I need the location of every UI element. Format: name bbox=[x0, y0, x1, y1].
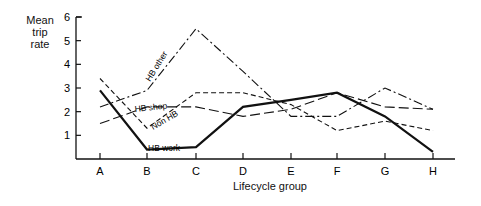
x-tick-label: D bbox=[239, 165, 247, 177]
x-tick-label: G bbox=[381, 165, 390, 177]
x-tick-label: A bbox=[96, 165, 104, 177]
x-tick-label: C bbox=[192, 165, 200, 177]
x-tick-label: H bbox=[429, 165, 437, 177]
x-tick-label: E bbox=[287, 165, 294, 177]
y-tick-label: 1 bbox=[64, 129, 70, 141]
y-tick-label: 4 bbox=[64, 58, 70, 70]
series-label: HB work bbox=[148, 143, 181, 153]
y-tick-label: 2 bbox=[64, 106, 70, 118]
x-tick-label: B bbox=[143, 165, 150, 177]
line-chart: 123456ABCDEFGHHB otherHB shopNon HBHB wo… bbox=[0, 0, 481, 206]
y-tick-label: 6 bbox=[64, 11, 70, 23]
series-label: HB shop bbox=[134, 101, 168, 114]
x-tick-label: F bbox=[334, 165, 341, 177]
y-tick-label: 5 bbox=[64, 35, 70, 47]
series-label: HB other bbox=[143, 49, 169, 83]
y-tick-label: 3 bbox=[64, 82, 70, 94]
